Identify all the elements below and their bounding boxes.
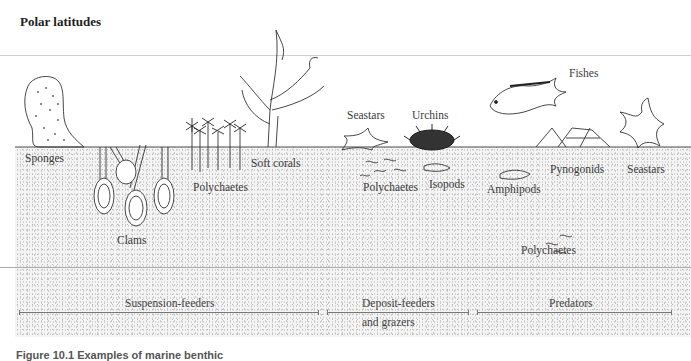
label-seastars-2: Seastars [627,163,665,175]
group-deposit-feeders: Deposit-feeders [362,297,435,309]
polychaete-worms-icon [360,159,572,253]
label-clams: Clams [117,234,146,246]
bracket-predators [477,312,672,313]
group-predators: Predators [549,297,592,309]
group-suspension-feeders: Suspension-feeders [125,297,214,309]
isopod-icon [424,164,450,171]
label-soft-corals: Soft corals [251,157,301,169]
label-urchins: Urchins [412,109,448,121]
label-pynogonids: Pynogonids [550,163,604,175]
polychaete-tubes-icon [186,118,246,172]
urchin-icon [404,124,460,150]
label-polychaetes-2: Polychaetes [363,181,418,193]
pycnogonid-icon [536,128,610,147]
label-seastars-1: Seastars [347,109,385,121]
label-fishes: Fishes [569,67,598,79]
seastar-icon-2 [620,98,664,148]
sponge-icon [25,76,84,147]
amphipod-icon [500,170,530,179]
label-polychaetes-3: Polychaetes [521,244,576,256]
label-isopods: Isopods [429,178,465,190]
group-grazers: and grazers [362,316,415,328]
label-sponges: Sponges [25,152,64,164]
label-polychaetes-1: Polychaetes [193,181,248,193]
figure-caption: Figure 10.1 Examples of marine benthic [16,349,223,361]
soft-coral-icon [240,30,324,147]
bracket-suspension [19,312,319,313]
fish-icon [490,78,566,114]
bracket-deposit [327,312,469,313]
clams-icon [94,145,174,226]
label-amphipods: Amphipods [487,183,541,195]
